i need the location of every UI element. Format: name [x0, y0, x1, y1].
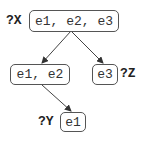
- left-node: e1, e2: [10, 64, 70, 85]
- leaf-node: e1: [60, 112, 86, 132]
- right-node: e3: [92, 64, 118, 85]
- edge-root-left: [42, 31, 71, 63]
- right-label: ?Z: [120, 66, 136, 81]
- edge-left-leaf: [42, 85, 71, 111]
- root-label: ?X: [6, 13, 22, 28]
- edge-root-right: [71, 31, 103, 63]
- root-node: e1, e2, e3: [29, 10, 119, 32]
- leaf-label: ?Y: [38, 114, 54, 129]
